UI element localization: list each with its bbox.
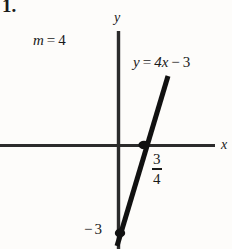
equation-annotation: y=4x−3 bbox=[133, 55, 190, 70]
x-intercept-point-marker bbox=[138, 141, 149, 149]
y-intercept-sign: − bbox=[84, 221, 94, 237]
y-intercept-label: −3 bbox=[84, 222, 102, 237]
slope-equals-sign: = bbox=[44, 32, 58, 48]
fraction-bar bbox=[152, 168, 162, 170]
slope-annotation: m=4 bbox=[33, 33, 66, 48]
problem-number: 1. bbox=[2, 0, 16, 15]
equation-lhs: y bbox=[133, 54, 140, 70]
slope-variable: m bbox=[33, 32, 44, 48]
equation-equals-sign: = bbox=[140, 54, 154, 70]
x-axis-label: x bbox=[221, 138, 227, 152]
equation-linear-term: 4x bbox=[154, 54, 168, 70]
fraction-numerator: 3 bbox=[152, 152, 162, 168]
fraction-denominator: 4 bbox=[152, 171, 162, 187]
y-axis-label: y bbox=[114, 11, 120, 25]
x-intercept-fraction: 3 4 bbox=[152, 152, 162, 187]
y-intercept-value: 3 bbox=[94, 221, 102, 237]
x-intercept-label: 3 4 bbox=[152, 152, 162, 187]
linear-graph-figure: 1. m=4 y=4x−3 y x −3 3 4 bbox=[0, 0, 232, 249]
slope-value: 4 bbox=[58, 32, 66, 48]
y-intercept-point-marker bbox=[115, 229, 125, 238]
equation-constant: 3 bbox=[183, 54, 191, 70]
equation-minus-sign: − bbox=[168, 54, 182, 70]
